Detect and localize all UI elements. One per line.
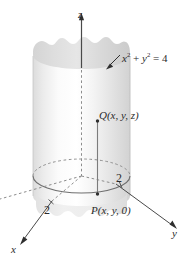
x-axis-tick-label-2: 2 [44, 204, 50, 216]
y-axis-label: y [172, 228, 177, 239]
point-p-marker [96, 192, 99, 195]
cylinder-equation-label: x2 + y2 = 4 [122, 53, 168, 64]
point-p-label: P(x, y, 0) [91, 205, 131, 216]
point-q-label: Q(x, y, z) [99, 110, 139, 121]
y-axis-tick-label-2: 2 [116, 172, 122, 184]
point-p-coords: (x, y, 0) [98, 204, 131, 216]
cylinder-figure: z y x x2 + y2 = 4 Q(x, y, z) P(x, y, 0) … [0, 0, 190, 271]
x-axis-label: x [11, 244, 16, 255]
point-p-name: P [91, 204, 98, 216]
equation-plus: + [130, 52, 142, 64]
x-axis-arrowhead [20, 237, 27, 245]
figure-canvas [0, 0, 190, 271]
point-q-name: Q [99, 109, 107, 121]
z-axis-label: z [78, 9, 82, 20]
equation-equals-four: = 4 [150, 52, 167, 64]
point-q-coords: (x, y, z) [107, 109, 139, 121]
